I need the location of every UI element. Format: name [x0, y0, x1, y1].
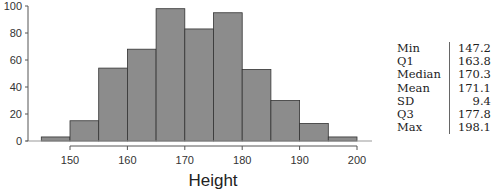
y-tick-label: 60: [10, 54, 22, 66]
stats-row: Median170.3: [397, 68, 491, 81]
histogram-bars: [26, 9, 372, 141]
histogram-bar: [185, 29, 214, 141]
stats-row: Mean171.1: [397, 82, 491, 95]
x-tick-label: 190: [290, 154, 308, 166]
histogram-bar: [242, 69, 271, 141]
y-tick-label: 100: [4, 0, 22, 12]
x-axis-title: Height: [188, 171, 237, 190]
stat-label: Median: [397, 68, 449, 81]
histogram-bar: [41, 137, 70, 141]
histogram-bar: [328, 137, 357, 141]
x-tick-label: 170: [176, 154, 194, 166]
stat-label: Max: [397, 121, 449, 134]
stat-value: 171.1: [449, 82, 491, 95]
histogram-bar: [127, 49, 156, 141]
stat-value: 170.3: [449, 68, 491, 81]
y-axis: 020406080100: [4, 0, 28, 147]
y-tick-label: 20: [10, 108, 22, 120]
histogram-bar: [156, 9, 185, 141]
y-tick-label: 40: [10, 81, 22, 93]
y-tick-label: 0: [16, 135, 22, 147]
stats-row: Max198.1: [397, 121, 491, 134]
histogram-bar: [99, 68, 128, 141]
summary-statistics-table: Min147.2Q1163.8Median170.3Mean171.1SD9.4…: [397, 42, 491, 134]
stat-value: 198.1: [449, 121, 491, 134]
x-tick-label: 160: [118, 154, 136, 166]
x-tick-label: 150: [61, 154, 79, 166]
histogram-chart: 020406080100 150160170180190200 Height: [0, 0, 380, 193]
y-tick-label: 80: [10, 27, 22, 39]
histogram-bar: [300, 123, 329, 141]
histogram-bar: [214, 13, 243, 141]
x-tick-label: 200: [348, 154, 366, 166]
x-axis: 150160170180190200: [61, 146, 366, 166]
stat-label: Mean: [397, 82, 449, 95]
histogram-bar: [70, 121, 99, 141]
x-tick-label: 180: [233, 154, 251, 166]
histogram-bar: [271, 101, 300, 142]
